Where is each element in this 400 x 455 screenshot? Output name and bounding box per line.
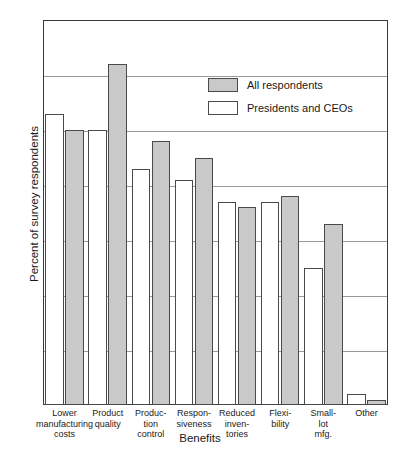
bar xyxy=(324,224,343,406)
bar xyxy=(347,394,366,405)
bar xyxy=(195,158,214,406)
bar xyxy=(152,141,171,405)
legend-label: Presidents and CEOs xyxy=(247,102,353,114)
bar xyxy=(304,268,323,406)
bar xyxy=(45,114,64,406)
x-axis-title: Benefits xyxy=(0,432,400,444)
bar xyxy=(218,202,237,406)
legend: All respondents Presidents and CEOs xyxy=(208,78,353,124)
bar-chart: Percent of survey respondents 0102030405… xyxy=(0,0,400,455)
y-axis-title: Percent of survey respondents xyxy=(28,74,40,334)
legend-item-presidents-and-ceos: Presidents and CEOs xyxy=(208,101,353,115)
gray-filled-swatch-icon xyxy=(208,78,238,92)
bar xyxy=(281,196,300,405)
x-tick-label-line: lot xyxy=(293,419,354,430)
bar xyxy=(65,130,84,405)
bar xyxy=(132,169,151,406)
x-tick-label-line: Other xyxy=(336,408,397,419)
bar xyxy=(108,64,127,405)
bar xyxy=(175,180,194,406)
legend-label: All respondents xyxy=(247,79,323,91)
white-filled-swatch-icon xyxy=(208,101,238,115)
x-tick-label: Other xyxy=(336,408,397,419)
bar xyxy=(261,202,280,406)
bar xyxy=(238,207,257,405)
legend-item-all-respondents: All respondents xyxy=(208,78,353,92)
bar xyxy=(367,400,386,406)
bar xyxy=(88,130,107,405)
